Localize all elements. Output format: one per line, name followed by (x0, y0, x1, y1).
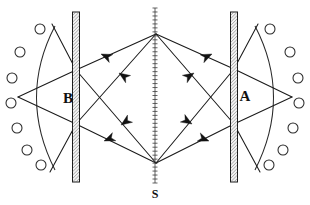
hatch-stroke (231, 182, 238, 189)
ray-bottom-to-a-lower (156, 124, 234, 163)
arrow-upper-left-inner (119, 73, 131, 83)
source-label: S (152, 187, 159, 201)
left-plate-label: B (63, 90, 73, 106)
detector-circle-right-4 (294, 98, 304, 108)
detector-circle-right-6 (278, 145, 288, 155)
detector-circle-left-1 (35, 24, 45, 34)
hatch-stroke (231, 189, 238, 196)
figure-labels-layer: B A S (63, 88, 251, 200)
ray-top-to-a-lower (156, 34, 234, 124)
hatch-stroke (73, 182, 80, 189)
detector-circle-left-4 (6, 98, 16, 108)
ray-bottom-to-b-lower (76, 124, 156, 163)
detector-circle-right-1 (265, 24, 275, 34)
arrow-lower-right-inner (180, 115, 192, 124)
ray-top-to-a-upper (156, 34, 234, 69)
plate-b (73, 5, 80, 196)
right-arc (255, 26, 274, 170)
detector-circle-left-6 (22, 145, 32, 155)
ray-top-to-b-lower (76, 34, 156, 124)
arrow-lower-left-outer (104, 133, 116, 141)
hatch-stroke (73, 189, 80, 196)
hatch-stroke (231, 185, 238, 192)
right-plate-label: A (240, 88, 251, 104)
detector-circle-right-2 (285, 47, 295, 57)
detector-circle-right-3 (293, 73, 303, 83)
diagram-canvas: B A S (0, 0, 310, 205)
detector-circle-right-5 (288, 123, 298, 133)
ray-bottom-to-b-upper (76, 70, 156, 163)
detector-circle-left-3 (7, 73, 17, 83)
ray-direction-arrows-layer (101, 54, 212, 141)
detector-circle-right-7 (264, 160, 274, 170)
plate-a (231, 5, 238, 196)
ray-top-to-b-upper (76, 34, 156, 70)
hatch-stroke (73, 185, 80, 192)
detector-circle-left-2 (15, 47, 25, 57)
detector-circle-left-5 (12, 123, 22, 133)
optical-diagram-figure: B A S (0, 0, 310, 205)
left-arc (37, 26, 56, 170)
arrow-upper-right-inner (182, 73, 194, 83)
ray-bottom-to-a-upper (156, 69, 234, 163)
arrow-lower-left-inner (121, 115, 133, 125)
detector-circle-left-7 (36, 160, 46, 170)
hatch-stroke (73, 5, 80, 12)
hatch-stroke (231, 5, 238, 12)
